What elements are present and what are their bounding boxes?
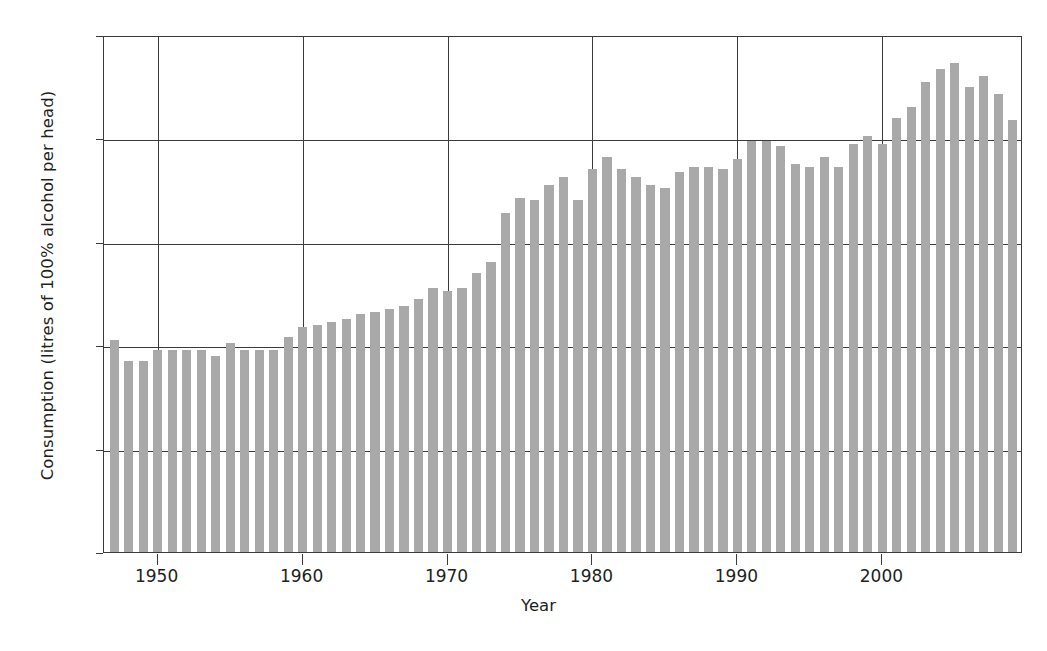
y-tick-mark-4 bbox=[96, 346, 103, 347]
bar-2000 bbox=[878, 144, 887, 552]
plot-inner bbox=[104, 37, 1021, 552]
x-tick-label-1990: 1990 bbox=[696, 566, 776, 586]
bar-1990 bbox=[733, 159, 742, 552]
bar-1953 bbox=[197, 350, 206, 552]
x-tick-mark-1960 bbox=[302, 554, 303, 565]
bar-1978 bbox=[559, 177, 568, 552]
bar-1992 bbox=[762, 141, 771, 552]
bar-2003 bbox=[921, 82, 930, 552]
bar-1983 bbox=[631, 177, 640, 552]
plot-area bbox=[103, 36, 1022, 553]
bar-1994 bbox=[791, 164, 800, 552]
x-tick-label-2000: 2000 bbox=[841, 566, 921, 586]
y-tick-mark-8 bbox=[96, 139, 103, 140]
bar-1995 bbox=[805, 167, 814, 552]
x-tick-label-1950: 1950 bbox=[117, 566, 197, 586]
x-tick-label-1970: 1970 bbox=[407, 566, 487, 586]
bar-1958 bbox=[269, 350, 278, 552]
y-tick-mark-2 bbox=[96, 450, 103, 451]
bar-1967 bbox=[399, 306, 408, 552]
bar-2006 bbox=[965, 87, 974, 552]
y-tick-mark-0 bbox=[96, 553, 103, 554]
bar-2002 bbox=[907, 107, 916, 552]
bar-1984 bbox=[646, 185, 655, 552]
bar-1959 bbox=[284, 337, 293, 552]
bar-1976 bbox=[530, 200, 539, 552]
bar-1963 bbox=[342, 319, 351, 552]
bar-1989 bbox=[718, 169, 727, 552]
bar-1979 bbox=[573, 200, 582, 552]
bar-1991 bbox=[747, 141, 756, 552]
bar-1998 bbox=[849, 144, 858, 552]
bar-1973 bbox=[486, 262, 495, 552]
bar-1950 bbox=[153, 350, 162, 552]
bar-1947 bbox=[110, 340, 119, 552]
bar-2001 bbox=[892, 118, 901, 552]
y-axis-title: Consumption (litres of 100% alcohol per … bbox=[38, 56, 57, 516]
bar-2007 bbox=[979, 76, 988, 552]
bar-1956 bbox=[240, 350, 249, 552]
bar-1957 bbox=[255, 350, 264, 552]
bar-2005 bbox=[950, 63, 959, 552]
bar-1960 bbox=[298, 327, 307, 552]
bar-1993 bbox=[776, 146, 785, 552]
bar-2008 bbox=[994, 94, 1003, 552]
bar-1975 bbox=[515, 198, 524, 552]
bar-1982 bbox=[617, 169, 626, 552]
bar-series bbox=[104, 37, 1021, 552]
x-tick-mark-1980 bbox=[591, 554, 592, 565]
x-tick-mark-1970 bbox=[447, 554, 448, 565]
bar-1952 bbox=[182, 350, 191, 552]
bar-1981 bbox=[602, 157, 611, 553]
x-tick-label-1960: 1960 bbox=[262, 566, 342, 586]
bar-1980 bbox=[588, 169, 597, 552]
x-tick-label-1980: 1980 bbox=[551, 566, 631, 586]
bar-1965 bbox=[370, 312, 379, 552]
bar-1997 bbox=[834, 167, 843, 552]
bar-1966 bbox=[385, 309, 394, 552]
x-tick-mark-1990 bbox=[736, 554, 737, 565]
bar-1986 bbox=[675, 172, 684, 552]
bar-1962 bbox=[327, 322, 336, 552]
bar-1988 bbox=[704, 167, 713, 552]
bar-1972 bbox=[472, 273, 481, 552]
x-axis-title-text: Year bbox=[521, 596, 556, 615]
y-tick-mark-6 bbox=[96, 243, 103, 244]
bar-1985 bbox=[660, 188, 669, 552]
bar-1951 bbox=[168, 350, 177, 552]
bar-1949 bbox=[139, 361, 148, 552]
bar-2009 bbox=[1008, 120, 1017, 552]
x-tick-mark-2000 bbox=[881, 554, 882, 565]
bar-1970 bbox=[443, 291, 452, 552]
chart-figure: Consumption (litres of 100% alcohol per … bbox=[0, 0, 1047, 651]
y-tick-mark-10 bbox=[96, 36, 103, 37]
bar-1964 bbox=[356, 314, 365, 552]
bar-1974 bbox=[501, 213, 510, 552]
x-tick-mark-1950 bbox=[157, 554, 158, 565]
bar-1961 bbox=[313, 325, 322, 552]
bar-1955 bbox=[226, 343, 235, 552]
bar-1999 bbox=[863, 136, 872, 552]
bar-2004 bbox=[936, 69, 945, 552]
bar-1987 bbox=[689, 167, 698, 552]
bar-1969 bbox=[428, 288, 437, 552]
x-axis-title: Year bbox=[0, 596, 1047, 615]
bar-1996 bbox=[820, 157, 829, 553]
bar-1948 bbox=[124, 361, 133, 552]
bar-1968 bbox=[414, 299, 423, 552]
bar-1971 bbox=[457, 288, 466, 552]
bar-1954 bbox=[211, 356, 220, 552]
bar-1977 bbox=[544, 185, 553, 552]
